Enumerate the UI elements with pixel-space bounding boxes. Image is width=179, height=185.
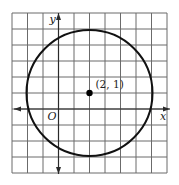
center-point-label: (2, 1) [96, 78, 124, 90]
y-axis-up-arrow-icon [56, 13, 61, 20]
center-point [86, 90, 92, 96]
y-axis-label: y [49, 13, 57, 26]
diagram-stage: (2, 1) y x O [0, 0, 179, 185]
x-axis-label: x [160, 110, 167, 123]
origin-label: O [48, 110, 57, 123]
x-axis-left-arrow-icon [14, 107, 21, 112]
coordinate-plane: (2, 1) y x O [0, 0, 179, 185]
